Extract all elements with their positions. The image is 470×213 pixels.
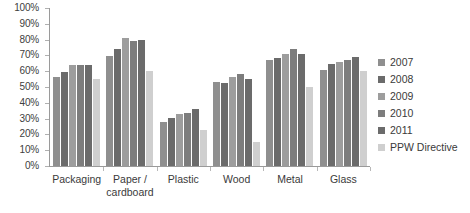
bar	[320, 70, 327, 166]
bar-group	[157, 8, 210, 166]
bar	[274, 58, 281, 166]
legend-swatch-icon	[378, 144, 385, 151]
bar-group	[103, 8, 156, 166]
bar	[229, 77, 236, 166]
legend-item[interactable]: 2010	[378, 105, 470, 122]
y-tick-label: 80%	[20, 35, 39, 45]
bar	[237, 74, 244, 166]
bar	[93, 79, 100, 166]
legend-swatch-icon	[378, 93, 385, 100]
legend-label: PPW Directive	[390, 142, 458, 153]
bar	[245, 79, 252, 166]
y-tick-mark	[45, 40, 49, 41]
bar	[253, 142, 260, 166]
y-tick-mark	[45, 87, 49, 88]
bar	[344, 60, 351, 166]
category-separator	[370, 167, 371, 171]
bar	[184, 113, 191, 166]
legend-swatch-icon	[378, 127, 385, 134]
category-separator	[210, 167, 211, 171]
bar	[61, 72, 68, 166]
x-axis-category-label: Plastic	[157, 173, 210, 186]
bar-group	[317, 8, 370, 166]
y-tick-mark	[45, 55, 49, 56]
x-axis-category-label-line: Wood	[210, 173, 263, 186]
y-tick-mark	[45, 24, 49, 25]
bar	[298, 54, 305, 166]
legend-label: 2011	[390, 125, 413, 136]
plot-wrapper: 0%10%20%30%40%50%60%70%80%90%100% Packag…	[0, 0, 375, 213]
x-axis-category-label-line: Packaging	[50, 173, 103, 186]
bar	[192, 109, 199, 166]
legend-item[interactable]: PPW Directive	[378, 139, 470, 156]
bar	[282, 54, 289, 166]
bar	[290, 49, 297, 166]
x-axis-category-label-line: Glass	[317, 173, 370, 186]
bar	[221, 83, 228, 166]
legend-swatch-icon	[378, 110, 385, 117]
x-axis-labels: PackagingPaper /cardboardPlasticWoodMeta…	[50, 173, 370, 211]
chart-legend: 20072008200920102011PPW Directive	[378, 54, 470, 156]
y-tick-label: 90%	[20, 19, 39, 29]
y-tick-mark	[45, 8, 49, 9]
y-tick-label: 70%	[20, 50, 39, 60]
y-tick-label: 20%	[20, 129, 39, 139]
plot-area	[50, 8, 370, 166]
legend-label: 2010	[390, 108, 413, 119]
x-axis-category-label-line: Paper /	[103, 173, 156, 186]
y-tick-label: 50%	[20, 82, 39, 92]
bar	[130, 41, 137, 166]
bar	[114, 49, 121, 166]
legend-item[interactable]: 2009	[378, 88, 470, 105]
bar-chart: 0%10%20%30%40%50%60%70%80%90%100% Packag…	[0, 0, 470, 213]
bar	[168, 118, 175, 166]
x-axis-category-label: Packaging	[50, 173, 103, 186]
bar	[360, 71, 367, 166]
bar-group	[263, 8, 316, 166]
bar-group	[50, 8, 103, 166]
y-tick-label: 0%	[25, 161, 39, 171]
bar	[53, 77, 60, 166]
bar	[352, 57, 359, 166]
legend-item[interactable]: 2008	[378, 71, 470, 88]
y-tick-mark	[45, 103, 49, 104]
y-tick-mark	[45, 150, 49, 151]
bar	[69, 65, 76, 166]
y-tick-mark	[45, 134, 49, 135]
x-axis-category-label: Metal	[263, 173, 316, 186]
y-axis: 0%10%20%30%40%50%60%70%80%90%100%	[0, 8, 43, 166]
x-axis-category-label-line: cardboard	[103, 186, 156, 199]
bar	[85, 65, 92, 166]
x-axis-category-label: Paper /cardboard	[103, 173, 156, 199]
y-tick-mark	[45, 71, 49, 72]
y-tick-label: 60%	[20, 66, 39, 76]
y-tick-label: 30%	[20, 114, 39, 124]
bar	[328, 64, 335, 166]
bar	[160, 122, 167, 166]
bar	[336, 62, 343, 166]
category-separator	[317, 167, 318, 171]
bar	[266, 60, 273, 166]
x-axis-category-label: Wood	[210, 173, 263, 186]
bar	[138, 40, 145, 166]
x-axis-category-label-line: Metal	[263, 173, 316, 186]
y-tick-mark	[45, 166, 49, 167]
category-separator	[103, 167, 104, 171]
legend-swatch-icon	[378, 76, 385, 83]
bar	[146, 71, 153, 166]
y-tick-mark	[45, 119, 49, 120]
bar-group	[210, 8, 263, 166]
legend-item[interactable]: 2007	[378, 54, 470, 71]
legend-label: 2007	[390, 57, 413, 68]
bar	[122, 38, 129, 166]
x-axis-category-label-line: Plastic	[157, 173, 210, 186]
y-tick-label: 100%	[14, 3, 39, 13]
category-separator	[157, 167, 158, 171]
bar	[306, 87, 313, 166]
bar	[77, 65, 84, 166]
y-tick-label: 10%	[20, 145, 39, 155]
legend-label: 2008	[390, 74, 413, 85]
bar	[213, 82, 220, 166]
bar	[200, 130, 207, 166]
legend-item[interactable]: 2011	[378, 122, 470, 139]
